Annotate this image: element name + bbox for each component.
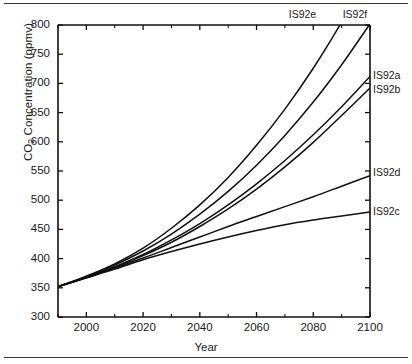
series-label-is92d: IS92d [373,167,400,178]
y-tick-label-600: 600 [14,136,50,148]
x-tick-label-2040: 2040 [176,322,224,334]
series-line-is92e [58,0,370,287]
series-line-is92c [58,212,370,287]
y-tick-label-650: 650 [14,107,50,119]
series-line-is92b [58,88,370,287]
series-line-is92f [58,24,370,287]
figure-container: CO2 Concentration (ppmv) Year 3003504004… [0,0,412,364]
ticks-group [58,25,370,317]
series-label-is92a: IS92a [373,70,400,81]
chart-canvas [0,0,412,364]
y-tick-label-500: 500 [14,194,50,206]
series-label-is92f: IS92f [343,9,368,20]
x-tick-label-2020: 2020 [119,322,167,334]
series-curves-group [58,0,370,287]
y-tick-label-300: 300 [14,311,50,323]
series-label-is92b: IS92b [373,84,400,95]
series-label-is92c: IS92c [373,206,400,217]
x-tick-label-2000: 2000 [62,322,110,334]
y-tick-label-450: 450 [14,223,50,235]
y-tick-label-700: 700 [14,77,50,89]
series-label-is92e: IS92e [289,9,316,20]
series-line-is92a [58,76,370,286]
x-axis-title: Year [0,341,412,353]
x-tick-label-2080: 2080 [289,322,337,334]
y-tick-label-550: 550 [14,165,50,177]
y-tick-label-750: 750 [14,48,50,60]
y-tick-label-400: 400 [14,253,50,265]
x-tick-label-2060: 2060 [233,322,281,334]
y-tick-label-350: 350 [14,282,50,294]
y-tick-label-800: 800 [14,19,50,31]
axes-group [58,25,370,317]
x-tick-label-2100: 2100 [346,322,394,334]
